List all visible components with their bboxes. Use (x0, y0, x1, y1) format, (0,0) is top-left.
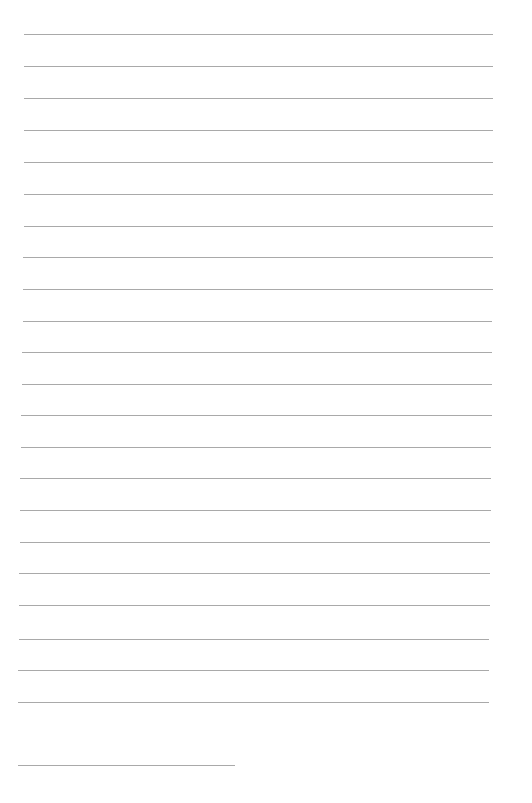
ruled-line (23, 257, 493, 258)
ruled-line (20, 542, 490, 543)
ruled-line (20, 510, 491, 511)
ruled-line (18, 702, 489, 703)
ruled-line (24, 66, 493, 67)
ruled-line (21, 447, 491, 448)
ruled-line (19, 573, 490, 574)
ruled-line (21, 415, 492, 416)
ruled-line (24, 130, 493, 131)
ruled-line (20, 478, 491, 479)
ruled-line (24, 98, 493, 99)
ruled-line (24, 194, 493, 195)
ruled-line (19, 605, 490, 606)
ruled-line (22, 352, 492, 353)
ruled-line (22, 384, 492, 385)
ruled-line (24, 34, 493, 35)
ruled-line (18, 670, 489, 671)
signature-line (18, 765, 235, 766)
ruled-line (23, 289, 493, 290)
ruled-line (23, 321, 492, 322)
ruled-line (19, 639, 489, 640)
lined-paper-page (0, 0, 532, 803)
ruled-line (24, 162, 493, 163)
ruled-line (24, 226, 493, 227)
